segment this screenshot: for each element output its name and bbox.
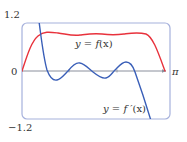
chart: 1.2 −1.2 0 π y = f(x) y = f ′(x) — [0, 0, 187, 142]
x-origin-label: 0 — [11, 66, 17, 77]
y-top-label: 1.2 — [4, 9, 20, 20]
fprime-curve-label: y = f ′(x) — [102, 103, 146, 114]
f-curve-label: y = f(x) — [74, 38, 113, 49]
y-bottom-label: −1.2 — [8, 122, 32, 133]
x-end-label: π — [171, 66, 179, 77]
